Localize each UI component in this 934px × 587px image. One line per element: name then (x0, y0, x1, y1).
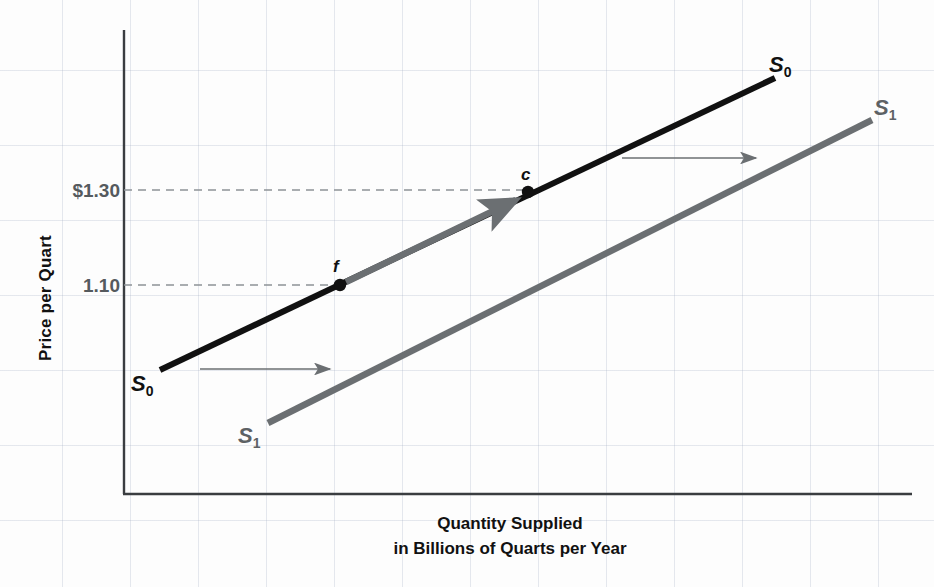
s0-letter-upper: S (769, 52, 784, 77)
s1-subscript-lower: 1 (253, 435, 261, 451)
point-label-c: c (521, 165, 530, 185)
s0-subscript-lower: 0 (146, 383, 154, 399)
y-tick-label-130: $1.30 (38, 180, 120, 202)
s0-letter-lower: S (131, 371, 146, 396)
point-label-f: f (333, 257, 339, 277)
x-axis-title: Quantity Supplied in Billions of Quarts … (300, 512, 720, 561)
supply-curve-plot (0, 0, 934, 587)
chart-canvas: $1.30 1.10 c f S0 S0 S1 S1 Price per Qua… (0, 0, 934, 587)
point-marker-f (334, 279, 346, 291)
reference-lines (124, 190, 528, 285)
curve-label-s1-upper-right: S1 (874, 95, 896, 123)
x-axis-title-line1: Quantity Supplied (300, 512, 720, 537)
s1-letter-upper: S (874, 95, 889, 120)
x-axis-title-line2: in Billions of Quarts per Year (300, 537, 720, 562)
movement-along-curve-arrow (346, 200, 516, 282)
point-marker-c (522, 186, 534, 198)
curve-label-s1-lower-left: S1 (238, 423, 260, 451)
s0-subscript-upper: 0 (784, 64, 792, 80)
y-axis-title: Price per Quart (36, 208, 56, 388)
curve-label-s0-upper-right: S0 (769, 52, 791, 80)
s1-letter-lower: S (238, 423, 253, 448)
supply-curve-s1 (268, 120, 872, 423)
s1-subscript-upper: 1 (889, 107, 897, 123)
curve-label-s0-lower-left: S0 (131, 371, 153, 399)
